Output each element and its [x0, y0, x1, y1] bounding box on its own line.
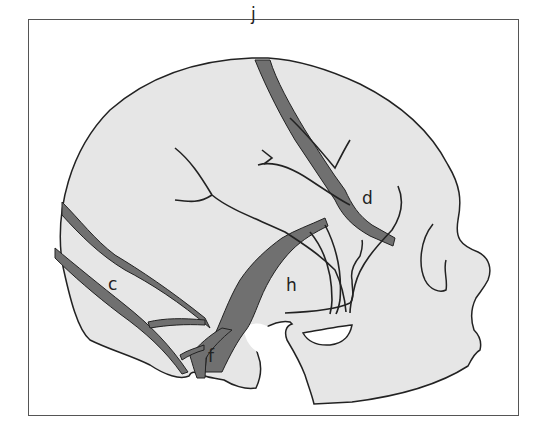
label-f: f — [208, 348, 214, 365]
label-h: h — [286, 277, 297, 294]
skull-diagram — [0, 0, 539, 436]
label-j: j — [251, 6, 256, 23]
label-c: c — [108, 276, 117, 293]
skull-outline — [60, 58, 490, 404]
label-d: d — [362, 190, 373, 207]
